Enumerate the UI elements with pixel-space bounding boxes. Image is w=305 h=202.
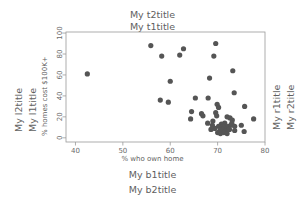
- data-points: [85, 41, 257, 136]
- data-point: [206, 95, 211, 100]
- data-point: [177, 52, 182, 57]
- x-tick-label: 50: [118, 147, 127, 155]
- data-point: [214, 113, 219, 118]
- data-point: [159, 54, 164, 59]
- scatter-plot-figure: My t2title My t1title My l2title My l1ti…: [0, 0, 305, 202]
- data-point: [207, 76, 212, 81]
- x-tick-label: 80: [261, 147, 270, 155]
- data-point: [242, 104, 247, 109]
- data-point: [85, 71, 90, 76]
- data-point: [232, 90, 237, 95]
- y-tick-label: 0: [56, 136, 64, 140]
- data-point: [213, 41, 218, 46]
- data-point: [158, 98, 163, 103]
- data-point: [208, 127, 213, 132]
- x-tick-label: 70: [213, 147, 222, 155]
- y-tick-label: 40: [56, 91, 64, 100]
- plot-canvas: 4050607080020406080100: [0, 0, 305, 202]
- data-point: [189, 109, 194, 114]
- data-point: [166, 100, 171, 105]
- data-point: [216, 105, 221, 110]
- data-point: [230, 68, 235, 73]
- data-point: [251, 116, 256, 121]
- data-point: [232, 124, 237, 129]
- y-tick-label: 80: [56, 50, 64, 59]
- data-point: [242, 129, 247, 134]
- data-point: [225, 131, 230, 136]
- data-point: [193, 95, 198, 100]
- data-point: [211, 54, 216, 59]
- data-point: [181, 46, 186, 51]
- data-point: [200, 113, 205, 118]
- y-tick-label: 20: [56, 112, 64, 121]
- data-point: [148, 43, 153, 48]
- data-point: [205, 121, 210, 126]
- y-tick-label: 100: [56, 26, 64, 39]
- data-point: [239, 123, 244, 128]
- data-point: [188, 116, 193, 121]
- axis-tick-labels: 4050607080020406080100: [56, 26, 269, 155]
- x-tick-label: 60: [166, 147, 175, 155]
- data-point: [210, 118, 215, 123]
- data-point: [168, 79, 173, 84]
- y-tick-label: 60: [56, 70, 64, 79]
- x-tick-label: 40: [71, 147, 80, 155]
